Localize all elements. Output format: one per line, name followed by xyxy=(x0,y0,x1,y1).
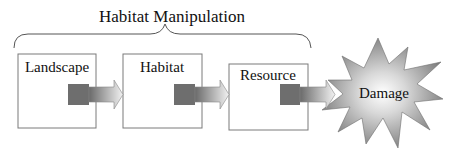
habitat-manipulation-diagram: Habitat Manipulation Landscape Habitat R… xyxy=(0,0,456,154)
box-label: Landscape xyxy=(25,59,89,75)
connector-square xyxy=(174,84,195,105)
box-label: Habitat xyxy=(140,59,185,75)
connector-square xyxy=(68,84,89,105)
damage-starburst: Damage xyxy=(322,38,443,148)
connector-square xyxy=(280,84,300,105)
diagram-title: Habitat Manipulation xyxy=(99,7,245,26)
damage-label: Damage xyxy=(359,85,409,101)
box-label: Resource xyxy=(240,67,296,83)
grouping-brace xyxy=(14,24,311,48)
